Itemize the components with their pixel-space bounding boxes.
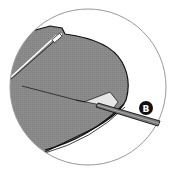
callout-label: B [143,104,150,114]
detail-illustration: B [0,0,175,169]
diagram-canvas: B [0,0,175,169]
callout-badge-b: B [139,101,153,115]
